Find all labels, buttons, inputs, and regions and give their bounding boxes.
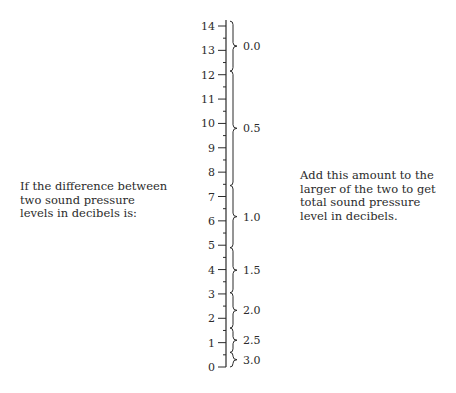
brace-label: 3.0 [243,354,261,367]
tick-label: 8 [208,166,215,179]
tick-label: 9 [208,142,215,155]
brace [230,293,237,328]
tick-label: 12 [201,69,215,82]
tick-label: 3 [208,288,215,301]
brace [230,186,237,248]
add-amount-braces: 0.00.51.01.52.02.53.0 [230,21,261,367]
brace-label: 0.0 [243,40,261,53]
brace-label: 1.0 [243,211,261,224]
tick-label: 2 [208,312,215,325]
tick-label: 6 [208,215,215,228]
brace-label: 0.5 [243,122,261,135]
brace [230,71,237,185]
tick-label: 11 [201,93,215,106]
tick-label: 14 [201,20,215,33]
tick-label: 13 [201,44,215,57]
tick-label: 0 [208,361,215,374]
difference-axis: 01234567891011121314 [201,20,226,374]
brace [230,248,237,293]
brace-label: 2.0 [243,304,261,317]
brace-label: 2.5 [243,334,261,347]
tick-label: 1 [208,337,215,350]
tick-label: 7 [208,191,215,204]
tick-label: 4 [208,264,215,277]
brace [230,21,237,71]
tick-label: 5 [208,239,215,252]
brace [230,352,237,367]
decibel-addition-scale: 01234567891011121314 0.00.51.01.52.02.53… [0,0,456,393]
tick-label: 10 [201,117,215,130]
brace [230,328,237,352]
brace-label: 1.5 [243,264,261,277]
